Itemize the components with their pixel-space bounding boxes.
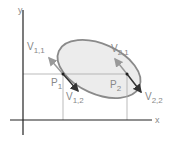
label-p1: P1 [51,77,63,91]
label-v11: V1,1 [27,41,45,55]
label-v12: V1,2 [66,91,84,105]
diagram: y x V1,1 V1,2 V2,1 V2,2 P1 P2 [0,0,176,145]
ellipse-shape [49,28,150,109]
point-p2-dot [126,73,129,76]
point-p1-dot [62,73,65,76]
label-v22: V2,2 [145,91,163,105]
y-axis-label: y [18,5,23,15]
x-axis-label: x [155,115,160,125]
